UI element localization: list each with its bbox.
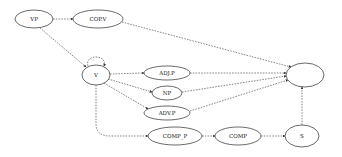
edge-np-to-target <box>182 76 286 92</box>
edge-v-to-adjp <box>110 73 144 74</box>
node-adjp: ADJ.P <box>144 66 190 80</box>
dependency-graph: VPCOP.VVADJ.PNPADV.PCOMP_PCOMPS <box>0 0 342 157</box>
node-label: S <box>300 133 304 139</box>
node-np: NP <box>152 86 182 100</box>
edge-copv-to-target <box>122 22 291 67</box>
node-vp: VP <box>15 10 53 28</box>
node-ellipse <box>286 63 324 87</box>
node-compp: COMP_P <box>148 127 202 145</box>
nodes-layer: VPCOP.VVADJ.PNPADV.PCOMP_PCOMPS <box>15 10 324 147</box>
node-comp: COMP <box>215 127 261 145</box>
node-label: COMP_P <box>163 133 188 140</box>
node-v: V <box>82 65 110 85</box>
edge-advp-to-target <box>190 80 288 111</box>
edge-v-to-compp <box>96 85 148 136</box>
node-label: COMP <box>229 133 247 139</box>
node-label: ADV.P <box>158 110 176 116</box>
node-label: ADJ.P <box>158 70 175 77</box>
node-copv: COP.V <box>73 10 123 28</box>
node-s: S <box>285 125 319 147</box>
node-target <box>286 63 324 87</box>
node-label: VP <box>29 16 38 22</box>
node-label: COP.V <box>89 16 107 22</box>
edge-vp-to-v <box>40 28 86 67</box>
edge-v-to-np <box>108 79 152 92</box>
node-label: NP <box>163 90 172 96</box>
edge-v-to-advp <box>104 83 148 109</box>
node-advp: ADV.P <box>144 106 190 120</box>
